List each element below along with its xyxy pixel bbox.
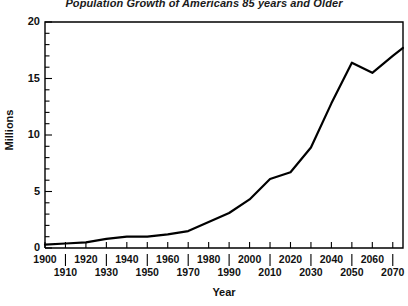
x-tick-label: 1930 <box>86 267 126 278</box>
x-tick-label: 2070 <box>373 267 408 278</box>
x-tick-label: 1980 <box>189 254 229 265</box>
x-tick-label: 2020 <box>270 254 310 265</box>
x-tick-label: 1960 <box>148 254 188 265</box>
x-tick-label: 2010 <box>250 267 290 278</box>
y-tick-label: 0 <box>4 242 40 253</box>
x-tick-label: 2030 <box>291 267 331 278</box>
x-tick-label: 2060 <box>352 254 392 265</box>
x-tick-label: 1950 <box>127 267 167 278</box>
tick-marks <box>45 22 393 266</box>
x-tick-label: 2040 <box>311 254 351 265</box>
chart-figure: Population Growth of Americans 85 years … <box>0 0 408 306</box>
y-tick-label: 10 <box>4 129 40 140</box>
x-tick-label: 1940 <box>107 254 147 265</box>
y-tick-label: 15 <box>4 73 40 84</box>
x-tick-label: 1900 <box>25 254 65 265</box>
x-tick-label: 1910 <box>45 267 85 278</box>
x-tick-label: 2050 <box>332 267 372 278</box>
x-tick-label: 2000 <box>230 254 270 265</box>
data-line-series-1 <box>45 48 403 245</box>
x-tick-label: 1920 <box>66 254 106 265</box>
x-tick-label: 1990 <box>209 267 249 278</box>
y-tick-label: 20 <box>4 16 40 27</box>
x-tick-label: 1970 <box>168 267 208 278</box>
y-tick-label: 5 <box>4 186 40 197</box>
